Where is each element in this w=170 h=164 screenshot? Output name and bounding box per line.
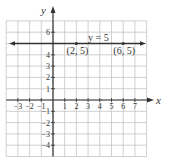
x-tick-label: 4 bbox=[98, 102, 102, 111]
x-tick-label: −3 bbox=[14, 102, 23, 111]
y-tick-label: 4 bbox=[46, 51, 50, 60]
point-label: (6, 5) bbox=[113, 45, 135, 57]
right-arrow-icon bbox=[140, 41, 146, 46]
y-axis-label: y bbox=[40, 4, 46, 16]
x-axis-arrow-icon bbox=[147, 98, 154, 103]
y-tick-label: −1 bbox=[41, 107, 50, 116]
y-tick-label: 2 bbox=[46, 73, 50, 82]
y-tick-label: 3 bbox=[46, 62, 50, 71]
y-tick-label: −4 bbox=[41, 141, 50, 150]
x-tick-label: 6 bbox=[121, 102, 125, 111]
x-tick-label: 7 bbox=[133, 102, 137, 111]
coordinate-plane: −3−2−1123456764321−1−2−3−4 (2, 5)(6, 5) … bbox=[0, 0, 170, 164]
grid-lines bbox=[6, 21, 146, 157]
x-tick-label: 5 bbox=[110, 102, 114, 111]
x-tick-label: 2 bbox=[74, 102, 78, 111]
y-tick-label: 6 bbox=[46, 28, 50, 37]
point-label: (2, 5) bbox=[67, 45, 89, 57]
y-tick-label: 1 bbox=[46, 85, 50, 94]
x-axis-label: x bbox=[155, 94, 161, 106]
equation-label: y = 5 bbox=[88, 32, 109, 43]
y-axis-arrow-icon bbox=[51, 6, 56, 13]
x-tick-label: −2 bbox=[25, 102, 34, 111]
x-tick-label: 1 bbox=[63, 102, 67, 111]
y-tick-label: −3 bbox=[41, 130, 50, 139]
left-arrow-icon bbox=[9, 41, 15, 46]
x-tick-label: 3 bbox=[86, 102, 90, 111]
y-tick-label: −2 bbox=[41, 119, 50, 128]
